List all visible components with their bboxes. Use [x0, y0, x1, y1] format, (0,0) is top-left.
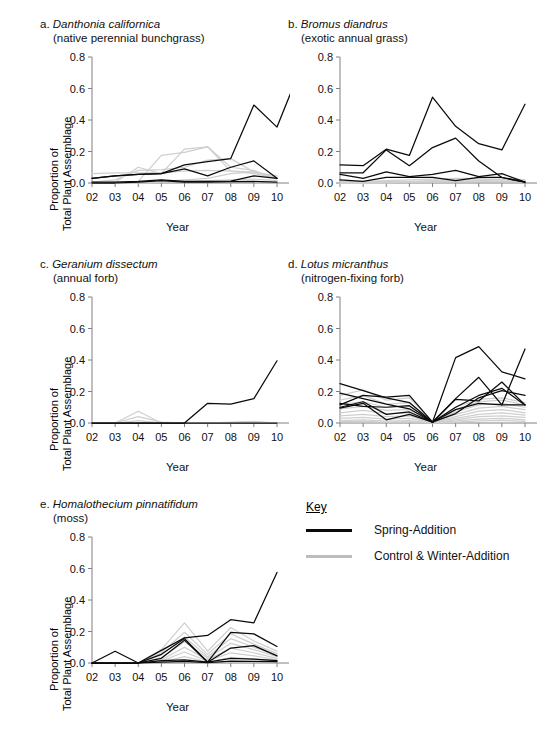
panel-e-xlabel: Year — [70, 701, 285, 713]
svg-text:04: 04 — [132, 671, 144, 683]
svg-text:0.8: 0.8 — [318, 291, 333, 303]
panel-a-ylabel-line1: Proportion of — [48, 148, 60, 211]
panel-a-ylabel-line2: Total Plant Assemblage — [61, 117, 73, 231]
svg-text:10: 10 — [271, 431, 283, 443]
panel-c-subtitle: (annual forb) — [40, 272, 290, 286]
panel-d-letter: d. — [288, 258, 298, 270]
svg-text:04: 04 — [132, 191, 144, 203]
legend-item-control-winter-addition: Control & Winter-Addition — [306, 549, 546, 563]
svg-text:0.8: 0.8 — [318, 51, 333, 63]
panel-c-xlabel: Year — [70, 461, 285, 473]
panel-d-xlabel: Year — [318, 461, 533, 473]
svg-text:06: 06 — [178, 191, 190, 203]
panel-a-letter: a. — [40, 18, 50, 30]
svg-text:03: 03 — [109, 191, 121, 203]
svg-text:02: 02 — [86, 671, 98, 683]
svg-text:10: 10 — [519, 431, 531, 443]
svg-text:0.2: 0.2 — [318, 386, 333, 398]
panel-d-plot: 0.00.20.40.60.8020304050607080910 Year — [288, 289, 543, 459]
svg-text:0.8: 0.8 — [70, 531, 85, 543]
svg-text:07: 07 — [202, 671, 214, 683]
svg-text:02: 02 — [334, 431, 346, 443]
svg-text:05: 05 — [155, 191, 167, 203]
svg-text:09: 09 — [496, 431, 508, 443]
svg-text:0.6: 0.6 — [70, 83, 85, 95]
panel-b-letter: b. — [288, 18, 298, 30]
panel-b-bromus-diandrus: b. Bromus diandrus (exotic annual grass)… — [288, 18, 543, 240]
panel-a-subtitle: (native perennial bunchgrass) — [40, 32, 290, 46]
panel-b-species: Bromus diandrus — [301, 18, 388, 30]
panel-c-geranium-dissectum: c. Geranium dissectum (annual forb) Prop… — [40, 258, 290, 480]
legend-swatch-spring-addition — [306, 529, 352, 532]
svg-text:03: 03 — [357, 191, 369, 203]
svg-text:06: 06 — [426, 431, 438, 443]
panel-c-ylabel-line1: Proportion of — [48, 388, 60, 451]
panel-a-plot: Proportion of Total Plant Assemblage 0.0… — [40, 49, 290, 219]
panel-a-danthonia-californica: a. Danthonia californica (native perenni… — [40, 18, 290, 240]
svg-text:05: 05 — [155, 671, 167, 683]
svg-text:05: 05 — [155, 431, 167, 443]
svg-text:0.6: 0.6 — [70, 563, 85, 575]
panel-d-subtitle: (nitrogen-fixing forb) — [288, 272, 543, 286]
panel-e-homalothecium-pinnatifidum: e. Homalothecium pinnatifidum (moss) Pro… — [40, 498, 290, 720]
svg-text:0.0: 0.0 — [318, 417, 333, 429]
svg-text:04: 04 — [132, 431, 144, 443]
panel-d-lotus-micranthus: d. Lotus micranthus (nitrogen-fixing for… — [288, 258, 543, 480]
svg-text:09: 09 — [248, 431, 260, 443]
panel-e-title: e. Homalothecium pinnatifidum (moss) — [40, 498, 290, 525]
svg-text:02: 02 — [86, 191, 98, 203]
svg-text:0.6: 0.6 — [318, 83, 333, 95]
svg-text:04: 04 — [380, 191, 392, 203]
legend: Key Spring-Addition Control & Winter-Add… — [306, 497, 546, 575]
panel-c-title: c. Geranium dissectum (annual forb) — [40, 258, 290, 285]
svg-text:10: 10 — [271, 191, 283, 203]
panel-a-svg: 0.00.20.40.60.8020304050607080910 — [40, 49, 290, 219]
svg-text:0.4: 0.4 — [318, 114, 333, 126]
svg-text:09: 09 — [496, 191, 508, 203]
svg-text:08: 08 — [225, 191, 237, 203]
panel-b-plot: 0.00.20.40.60.8020304050607080910 Year — [288, 49, 543, 219]
svg-text:0.0: 0.0 — [318, 177, 333, 189]
panel-e-subtitle: (moss) — [40, 512, 290, 526]
panel-e-species: Homalothecium pinnatifidum — [53, 498, 198, 510]
legend-label-control-winter-addition: Control & Winter-Addition — [374, 549, 509, 563]
svg-text:08: 08 — [225, 671, 237, 683]
svg-text:0.4: 0.4 — [318, 354, 333, 366]
panel-c-plot: Proportion of Total Plant Assemblage 0.0… — [40, 289, 290, 459]
svg-text:02: 02 — [334, 191, 346, 203]
svg-text:03: 03 — [109, 671, 121, 683]
legend-label-spring-addition: Spring-Addition — [374, 523, 456, 537]
panel-c-ylabel-line2: Total Plant Assemblage — [61, 357, 73, 471]
svg-text:08: 08 — [473, 191, 485, 203]
svg-text:0.8: 0.8 — [70, 291, 85, 303]
legend-item-spring-addition: Spring-Addition — [306, 523, 546, 537]
panel-a-xlabel: Year — [70, 221, 285, 233]
svg-text:07: 07 — [450, 431, 462, 443]
svg-text:09: 09 — [248, 191, 260, 203]
svg-text:03: 03 — [357, 431, 369, 443]
legend-title: Key — [306, 500, 327, 514]
svg-text:06: 06 — [426, 191, 438, 203]
svg-text:0.8: 0.8 — [70, 51, 85, 63]
panel-a-species: Danthonia californica — [53, 18, 160, 30]
svg-text:09: 09 — [248, 671, 260, 683]
panel-e-ylabel-line1: Proportion of — [48, 628, 60, 691]
svg-text:10: 10 — [271, 671, 283, 683]
svg-text:03: 03 — [109, 431, 121, 443]
svg-text:0.6: 0.6 — [70, 323, 85, 335]
panel-c-svg: 0.00.20.40.60.8020304050607080910 — [40, 289, 290, 459]
panel-d-species: Lotus micranthus — [301, 258, 389, 270]
svg-text:07: 07 — [202, 431, 214, 443]
legend-swatch-control-winter-addition — [306, 555, 352, 558]
panel-e-svg: 0.00.20.40.60.8020304050607080910 — [40, 529, 290, 699]
figure-container: a. Danthonia californica (native perenni… — [0, 0, 549, 742]
svg-text:08: 08 — [473, 431, 485, 443]
panel-d-svg: 0.00.20.40.60.8020304050607080910 — [288, 289, 538, 459]
svg-text:08: 08 — [225, 431, 237, 443]
panel-c-letter: c. — [40, 258, 49, 270]
svg-text:06: 06 — [178, 431, 190, 443]
svg-text:0.2: 0.2 — [318, 146, 333, 158]
panel-b-svg: 0.00.20.40.60.8020304050607080910 — [288, 49, 538, 219]
panel-b-title: b. Bromus diandrus (exotic annual grass) — [288, 18, 543, 45]
svg-text:10: 10 — [519, 191, 531, 203]
